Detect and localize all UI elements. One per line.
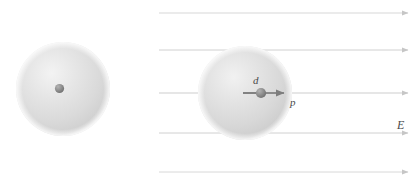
label-displacement-d: d — [253, 74, 259, 86]
polarized-atom-panel — [198, 46, 292, 140]
physics-figure-dipole-polarization: d p E — [0, 0, 413, 182]
nucleus-unpolarized — [55, 84, 64, 93]
label-electric-field-E: E — [396, 118, 405, 132]
label-dipole-moment-p: p — [289, 96, 296, 108]
unpolarized-atom-panel — [16, 42, 110, 136]
nucleus-polarized — [256, 88, 266, 98]
figure-canvas: d p E — [0, 0, 413, 182]
